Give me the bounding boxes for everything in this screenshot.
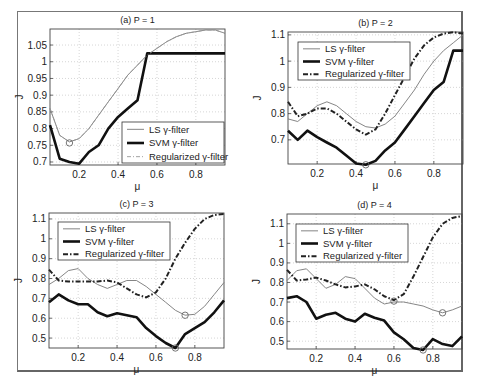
legend-entry: LS γ-filter [325, 43, 365, 54]
legend-entry: LS γ-filter [323, 225, 363, 236]
legend-entry: Regularized γ-filter [149, 151, 228, 162]
y-tick-label: 0.8 [33, 123, 47, 134]
chart-panel-2: 0.20.40.60.80.70.80.911.1(b) P = 2μJLS γ… [252, 18, 463, 191]
y-tick-label: 1 [40, 233, 46, 244]
legend: LS γ-filterSVM γ-filterRegularized γ-fil… [58, 222, 170, 260]
legend: LS γ-filterSVM γ-filterRegularized γ-fil… [122, 122, 228, 163]
x-tick-label: 0.6 [150, 169, 164, 180]
y-tick-label: 0.9 [32, 253, 46, 264]
y-tick-label: 0.9 [271, 82, 285, 93]
y-tick-label: 1 [41, 56, 47, 67]
series-line [287, 269, 462, 313]
y-tick-label: 1.1 [270, 218, 284, 229]
x-tick-label: 0.8 [427, 168, 441, 179]
x-tick-label: 0.8 [426, 353, 440, 364]
y-axis-label: J [13, 278, 24, 283]
chart-panel-1: 0.20.40.60.80.70.750.80.850.90.9511.05(a… [14, 15, 228, 192]
y-axis-label: J [252, 96, 263, 101]
y-tick-label: 0.8 [270, 277, 284, 288]
y-tick-label: 0.8 [32, 273, 46, 284]
legend-entry: Regularized γ-filter [323, 250, 402, 261]
x-tick-label: 0.4 [110, 352, 124, 363]
x-tick-label: 0.4 [348, 353, 362, 364]
legend-entry: SVM γ-filter [149, 137, 198, 148]
minimum-marker [66, 140, 72, 146]
y-tick-label: 1.1 [32, 213, 46, 224]
chart-panel-3: 0.20.40.60.80.50.60.70.80.911.1(c) P = 3… [13, 199, 224, 375]
x-axis-label: μ [135, 181, 141, 192]
legend-entry: SVM γ-filter [323, 238, 372, 249]
x-tick-label: 0.8 [189, 169, 203, 180]
legend-entry: LS γ-filter [85, 223, 125, 234]
y-tick-label: 0.8 [271, 108, 285, 119]
series-line [49, 269, 224, 316]
y-tick-label: 0.5 [32, 333, 46, 344]
y-tick-label: 0.6 [32, 313, 46, 324]
legend-entry: Regularized γ-filter [325, 68, 404, 79]
chart-title: (c) P = 3 [119, 199, 153, 209]
x-tick-label: 0.2 [310, 168, 324, 179]
x-axis-label: μ [372, 365, 378, 376]
series-line [49, 294, 224, 348]
y-tick-label: 0.7 [32, 293, 46, 304]
x-tick-label: 0.6 [149, 352, 163, 363]
y-tick-label: 0.85 [28, 106, 48, 117]
chart-title: (b) P = 2 [358, 18, 393, 28]
x-tick-label: 0.2 [309, 353, 323, 364]
legend-entry: SVM γ-filter [325, 56, 374, 67]
y-tick-label: 0.5 [270, 336, 284, 347]
y-tick-label: 0.7 [33, 156, 47, 167]
x-tick-label: 0.2 [72, 169, 86, 180]
x-tick-label: 0.2 [71, 352, 85, 363]
y-axis-label: J [251, 279, 262, 284]
y-tick-label: 1 [279, 56, 285, 67]
y-tick-label: 0.9 [33, 90, 47, 101]
x-tick-label: 0.6 [388, 168, 402, 179]
y-axis-label: J [14, 95, 25, 100]
y-tick-label: 0.95 [28, 73, 48, 84]
y-tick-label: 1.05 [28, 40, 48, 51]
y-tick-label: 0.7 [270, 297, 284, 308]
x-axis-label: μ [373, 180, 379, 191]
chart-panel-4: 0.20.40.60.80.50.60.70.80.911.1(d) P = 4… [251, 200, 462, 376]
legend-entry: Regularized γ-filter [85, 248, 164, 259]
y-tick-label: 0.9 [270, 257, 284, 268]
legend-entry: SVM γ-filter [85, 236, 134, 247]
y-tick-label: 0.6 [270, 316, 284, 327]
series-line [287, 296, 462, 350]
y-tick-label: 1.1 [271, 29, 285, 40]
chart-title: (d) P = 4 [357, 200, 392, 210]
y-tick-label: 0.75 [28, 140, 48, 151]
figure-canvas: 0.20.40.60.80.70.750.80.850.90.9511.05(a… [0, 0, 479, 386]
x-tick-label: 0.8 [188, 352, 202, 363]
legend-entry: LS γ-filter [149, 124, 189, 135]
x-tick-label: 0.4 [349, 168, 363, 179]
x-axis-label: μ [134, 364, 140, 375]
legend: LS γ-filterSVM γ-filterRegularized γ-fil… [298, 42, 410, 80]
x-tick-label: 0.6 [387, 353, 401, 364]
y-tick-label: 1 [278, 238, 284, 249]
y-tick-label: 0.7 [271, 134, 285, 145]
legend: LS γ-filterSVM γ-filterRegularized γ-fil… [296, 224, 408, 262]
chart-title: (a) P = 1 [120, 15, 155, 25]
x-tick-label: 0.4 [111, 169, 125, 180]
